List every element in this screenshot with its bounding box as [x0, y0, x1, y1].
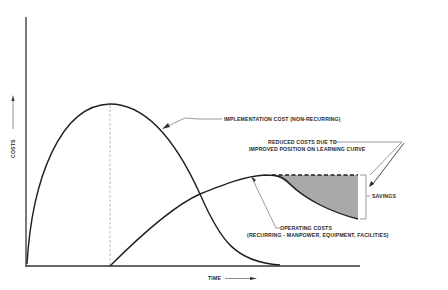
implementation-cost-curve	[27, 104, 280, 265]
implementation-label: IMPLEMENTATION COST (NON-RECURRING)	[224, 116, 341, 122]
reduced-arrowhead-icon	[369, 181, 374, 187]
x-axis-label: TIME	[208, 275, 221, 281]
operating-label-line2: (RECURRING - MANPOWER, EQUIPMENT, FACILI…	[247, 232, 389, 238]
x-axis-arrowhead-icon	[250, 277, 257, 280]
reduced-leader-arrow	[372, 143, 404, 185]
operating-leader-line	[252, 178, 280, 228]
y-axis-arrowhead-icon	[12, 95, 15, 101]
savings-bracket	[360, 175, 366, 219]
reduced-costs-label-line2: IMPROVED POSITION ON LEARNING CURVE	[249, 146, 366, 152]
implementation-leader-line	[185, 118, 222, 119]
implementation-arrowhead-icon	[162, 123, 170, 129]
reduced-costs-label-line1: REDUCED COSTS DUE TO	[268, 139, 337, 145]
x-axis-label-group: TIME	[208, 275, 257, 281]
y-axis-label: COSTS	[10, 139, 16, 158]
savings-label: SAVINGS	[372, 193, 396, 199]
operating-label-line1: OPERATING COSTS	[280, 225, 332, 231]
implementation-leader-diag	[168, 118, 185, 126]
savings-area	[270, 175, 358, 219]
cost-diagram: COSTS TIME SAVINGS IMPLEMENTATION COST (…	[0, 0, 448, 290]
y-axis-label-group: COSTS	[10, 95, 16, 158]
